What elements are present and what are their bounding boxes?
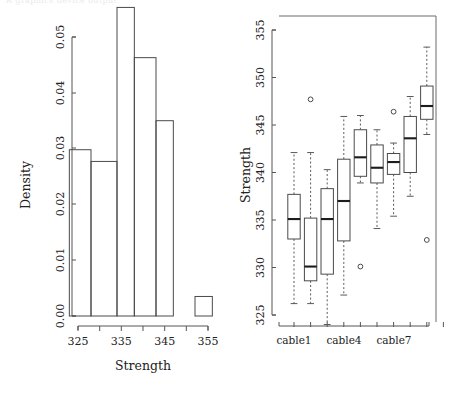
boxplot-box-cable5	[354, 116, 366, 269]
histogram-y-axis-title: Density	[18, 160, 33, 209]
boxplot-x-axis-line	[279, 322, 429, 326]
histogram-bar-2	[91, 161, 117, 316]
box-iqr	[371, 145, 383, 183]
box-iqr	[288, 194, 300, 239]
box-iqr	[404, 116, 416, 172]
box-outlier	[358, 264, 363, 269]
histogram-bars	[69, 7, 212, 316]
box-iqr	[421, 86, 433, 119]
boxplot-y-tick-labels: 325 330 335 340 345 350 355	[254, 20, 267, 326]
box-outlier	[308, 97, 313, 102]
histogram-x-tick-label-345: 345	[154, 335, 175, 348]
boxplot-svg: Strength 325 330 335 340 345 350 355	[232, 0, 449, 397]
boxplot-boxes	[288, 47, 433, 324]
histogram-y-tick-label-3: 0.03	[54, 136, 67, 161]
statistical-figure: R graphics device output Density 0.00 0.…	[0, 0, 449, 397]
box-iqr	[354, 130, 366, 177]
histogram-x-ticks	[78, 326, 208, 331]
boxplot-y-axis-title: Strength	[238, 147, 253, 203]
histogram-y-tick-label-2: 0.02	[54, 192, 67, 217]
boxplot-y-tick-label-325: 325	[254, 305, 267, 326]
boxplot-box-cable6	[371, 130, 383, 229]
histogram-bar-3	[117, 7, 134, 316]
box-outlier	[391, 109, 396, 114]
histogram-bar-4	[134, 58, 156, 316]
boxplot-x-tick-labels: cable1 cable4 cable7	[276, 334, 411, 346]
boxplot-box-cable1	[288, 153, 300, 304]
histogram-svg: Density 0.00 0.01 0.02 0.03 0.04 0.05	[0, 0, 232, 397]
boxplot-x-tick-label-cable7: cable7	[376, 334, 411, 346]
boxplot-y-tick-label-355: 355	[254, 20, 267, 41]
histogram-y-tick-label-1: 0.01	[54, 248, 67, 273]
box-iqr	[321, 189, 333, 275]
histogram-panel: Density 0.00 0.01 0.02 0.03 0.04 0.05	[0, 0, 232, 397]
histogram-x-axis-title: Strength	[115, 358, 171, 373]
histogram-y-tick-labels: 0.00 0.01 0.02 0.03 0.04 0.05	[54, 25, 67, 329]
boxplot-box-cable4	[338, 116, 350, 295]
box-iqr	[304, 218, 316, 281]
boxplot-x-tick-label-cable1: cable1	[276, 334, 311, 346]
boxplot-y-ticks	[272, 30, 276, 315]
boxplot-box-cable2	[304, 97, 316, 304]
histogram-bar-1	[69, 150, 91, 316]
boxplot-y-tick-label-340: 340	[254, 162, 267, 183]
histogram-x-tick-labels: 325 335 345 355	[68, 335, 219, 348]
boxplot-y-tick-label-335: 335	[254, 210, 267, 231]
boxplot-box-cable7	[387, 109, 399, 216]
histogram-y-tick-label-5: 0.05	[54, 25, 67, 50]
boxplot-x-tick-label-cable4: cable4	[326, 334, 361, 346]
boxplot-panel: Strength 325 330 335 340 345 350 355	[232, 0, 449, 397]
histogram-x-tick-label-325: 325	[68, 335, 89, 348]
histogram-y-axis-line	[72, 37, 76, 316]
box-outlier	[424, 238, 429, 243]
boxplot-y-tick-label-330: 330	[254, 257, 267, 278]
histogram-bar-7	[195, 296, 212, 316]
boxplot-box-cable8	[404, 97, 416, 197]
boxplot-box-cable9	[421, 47, 433, 242]
boxplot-y-tick-label-345: 345	[254, 115, 267, 136]
boxplot-y-tick-label-350: 350	[254, 67, 267, 88]
histogram-x-tick-label-355: 355	[198, 335, 219, 348]
boxplot-box-cable3	[321, 170, 333, 325]
box-iqr	[387, 154, 399, 175]
histogram-bar-5	[156, 121, 173, 316]
histogram-y-tick-label-0: 0.00	[54, 304, 67, 329]
histogram-x-tick-label-335: 335	[111, 335, 132, 348]
histogram-y-ticks	[72, 37, 76, 316]
histogram-y-tick-label-4: 0.04	[54, 81, 67, 106]
